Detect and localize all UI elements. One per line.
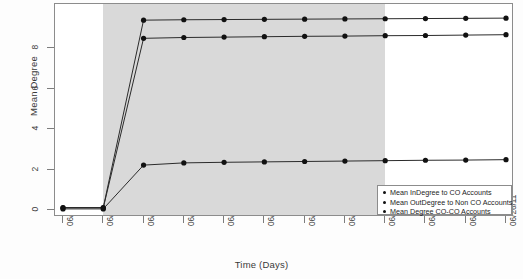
legend-label: Mean OutDegree to Non CO Accounts (390, 198, 512, 207)
data-point (503, 16, 508, 21)
data-point (181, 160, 186, 165)
x-axis-tick (424, 216, 425, 223)
x-axis-tick (263, 216, 264, 223)
data-point (503, 157, 508, 162)
chart-figure: Mean Degree Time (Days) 02468 06/15/1106… (0, 0, 523, 279)
data-point (221, 17, 226, 22)
data-point (181, 17, 186, 22)
data-point (221, 35, 226, 40)
y-axis-tick-label: 8 (30, 38, 40, 56)
data-point (463, 157, 468, 162)
data-point (262, 159, 267, 164)
legend-label: Mean Degree CO-CO Accounts (390, 207, 491, 216)
legend-item: Mean InDegree to CO Accounts (381, 188, 511, 197)
y-axis-tick-label: 0 (30, 200, 40, 218)
legend-label: Mean InDegree to CO Accounts (390, 188, 491, 197)
data-point (463, 32, 468, 37)
y-axis-tick (47, 88, 54, 89)
y-axis-tick-label: 2 (30, 160, 40, 178)
y-axis-tick-label: 6 (30, 79, 40, 97)
data-point (302, 159, 307, 164)
data-point (342, 16, 347, 21)
x-axis-tick (183, 216, 184, 223)
y-axis-tick (47, 128, 54, 129)
x-axis-tick (384, 216, 385, 223)
legend-marker-icon (383, 201, 386, 204)
data-point (141, 18, 146, 23)
x-axis-tick (223, 216, 224, 223)
data-point (342, 34, 347, 39)
x-axis-tick (465, 216, 466, 223)
data-point (423, 16, 428, 21)
x-axis-tick (62, 216, 63, 223)
data-point (141, 163, 146, 168)
x-axis-tick (143, 216, 144, 223)
data-point (262, 34, 267, 39)
legend-marker-icon (383, 210, 386, 213)
x-axis-tick (505, 216, 506, 223)
data-point (302, 17, 307, 22)
x-axis-title: Time (Days) (0, 259, 523, 270)
series-line (63, 35, 506, 208)
legend-item: Mean OutDegree to Non CO Accounts (381, 198, 511, 207)
x-axis-tick (102, 216, 103, 223)
data-point (342, 158, 347, 163)
data-point (383, 16, 388, 21)
data-point (463, 16, 468, 21)
data-point (383, 33, 388, 38)
data-point (503, 32, 508, 37)
y-axis-tick (47, 47, 54, 48)
legend-marker-icon (383, 191, 386, 194)
data-point (141, 36, 146, 41)
data-point (101, 206, 106, 211)
data-point (221, 160, 226, 165)
data-point (302, 34, 307, 39)
data-point (60, 206, 65, 211)
legend: Mean InDegree to CO Accounts Mean OutDeg… (377, 185, 512, 215)
series-line (63, 18, 506, 207)
x-axis-tick (304, 216, 305, 223)
data-point (262, 17, 267, 22)
x-axis-tick (344, 216, 345, 223)
data-point (181, 35, 186, 40)
data-point (423, 158, 428, 163)
y-axis-tick-label: 4 (30, 119, 40, 137)
y-axis-tick (47, 209, 54, 210)
data-point (383, 158, 388, 163)
y-axis-tick (47, 169, 54, 170)
data-point (423, 33, 428, 38)
legend-item: Mean Degree CO-CO Accounts (381, 207, 511, 216)
